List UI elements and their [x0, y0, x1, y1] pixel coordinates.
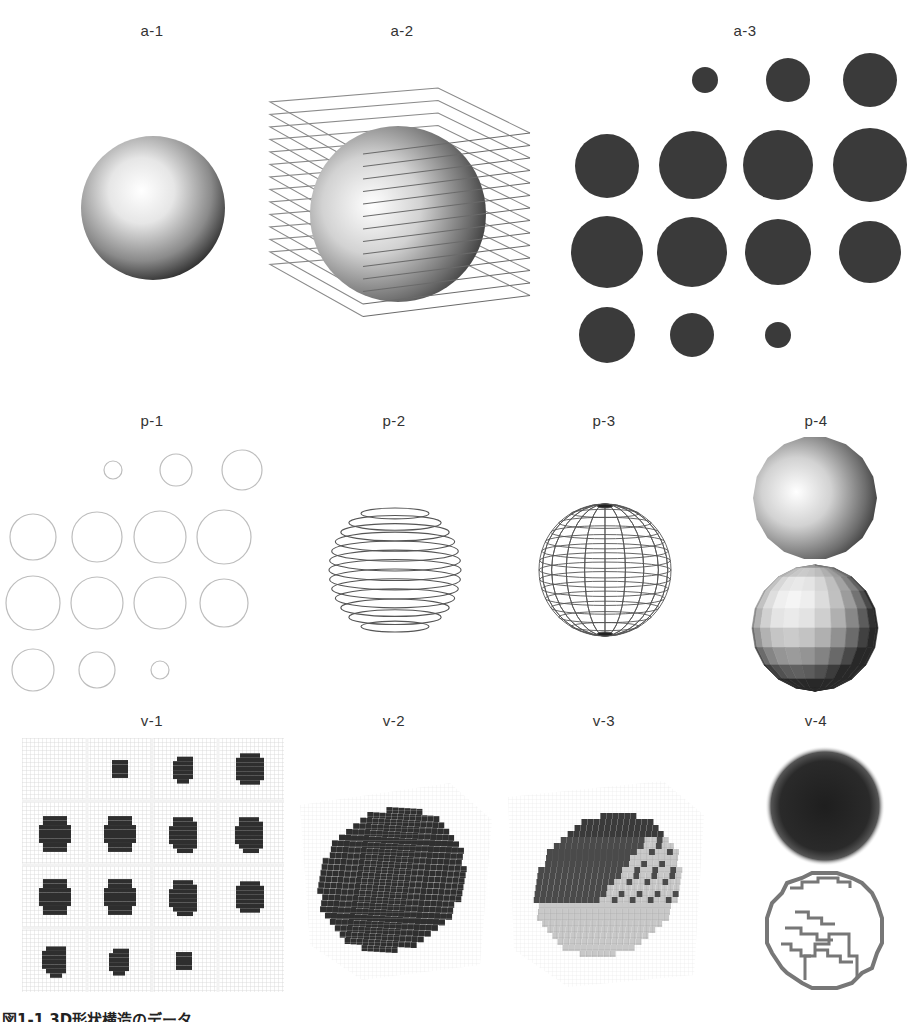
panel-label-a-2: a-2: [362, 22, 442, 39]
panel-label-v-1: v-1: [112, 712, 192, 729]
blurred-volume-v-4: [762, 748, 892, 993]
contour-circles-p-1: [10, 440, 280, 690]
panel-label-a-3: a-3: [705, 22, 785, 39]
polygon-spheres-p-4: [748, 436, 888, 694]
figure-caption: 図1-1 3D形状構造のデータ: [2, 1008, 192, 1022]
voxel-stepped-surface-v-3: [508, 775, 708, 990]
stacked-contours-p-2: [320, 490, 470, 650]
panel-label-p-1: p-1: [112, 412, 192, 429]
voxel-slice-grid-v-1: [22, 738, 284, 992]
panel-label-a-1: a-1: [112, 22, 192, 39]
latlong-wireframe-p-3: [530, 490, 680, 650]
panel-label-v-2: v-2: [354, 712, 434, 729]
shaded-sphere-a-1: [78, 128, 228, 288]
panel-label-v-3: v-3: [564, 712, 644, 729]
panel-label-p-3: p-3: [564, 412, 644, 429]
sliced-sphere-a-2: [268, 88, 538, 358]
cross-section-disks-a-3: [570, 55, 910, 375]
voxel-volume-v-2: [300, 775, 500, 985]
panel-label-v-4: v-4: [776, 712, 856, 729]
panel-label-p-2: p-2: [354, 412, 434, 429]
panel-label-p-4: p-4: [776, 412, 856, 429]
